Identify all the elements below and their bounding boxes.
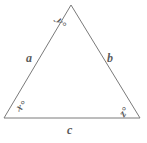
side-label-a: a — [26, 52, 32, 64]
triangle-figure: a b c y° x° z° — [0, 0, 147, 143]
triangle-shape — [0, 0, 147, 143]
side-label-b: b — [107, 52, 113, 64]
side-label-c: c — [67, 124, 72, 136]
